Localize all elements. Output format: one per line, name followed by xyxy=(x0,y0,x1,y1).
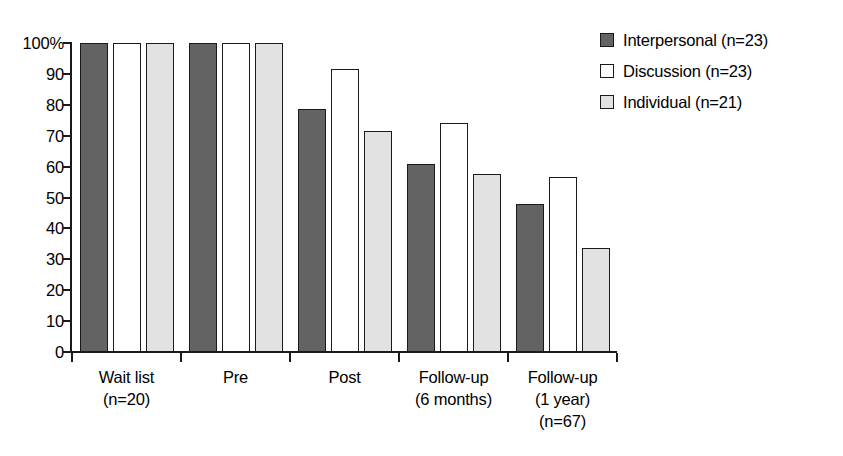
y-axis-tick-labels: 0102030405060708090100% xyxy=(8,34,64,352)
x-axis-tick-mark xyxy=(398,353,400,362)
legend-swatch-white-icon xyxy=(600,64,614,78)
x-axis-category-label: Follow-up (1 year) (n=67) xyxy=(501,366,625,432)
y-axis-tick-mark xyxy=(63,73,71,75)
legend-item-discussion: Discussion (n=23) xyxy=(600,57,843,85)
y-axis-tick-label: 60 xyxy=(8,158,64,175)
y-axis-tick-label: 10 xyxy=(8,313,64,330)
bar xyxy=(331,69,359,352)
x-axis-category-label: Wait list (n=20) xyxy=(65,366,189,410)
y-axis-tick-label: 30 xyxy=(8,251,64,268)
bar xyxy=(189,43,217,352)
y-axis-tick-label: 90 xyxy=(8,65,64,82)
bar-chart-plot-area: 0102030405060708090100% Wait list (n=20)… xyxy=(0,0,640,456)
chart-legend: Interpersonal (n=23) Discussion (n=23) I… xyxy=(600,26,843,119)
bar xyxy=(298,109,326,352)
bar xyxy=(549,177,577,352)
x-axis-category-label: Follow-up (6 months) xyxy=(392,366,516,410)
y-axis-tick-mark xyxy=(63,166,71,168)
y-axis-tick-label: 50 xyxy=(8,189,64,206)
legend-swatch-light-gray-icon xyxy=(600,95,614,109)
bar xyxy=(473,174,501,352)
x-axis-tick-mark xyxy=(507,353,509,362)
y-axis-tick-label: 70 xyxy=(8,127,64,144)
legend-label-individual: Individual (n=21) xyxy=(623,93,742,111)
y-axis-tick-mark xyxy=(63,351,71,353)
chart-page: 0102030405060708090100% Wait list (n=20)… xyxy=(0,0,843,456)
x-axis-tick-mark xyxy=(180,353,182,362)
bar xyxy=(255,43,283,352)
y-axis-tick-mark xyxy=(63,258,71,260)
y-axis-tick-label: 100% xyxy=(8,35,64,52)
y-axis-tick-mark xyxy=(63,320,71,322)
legend-item-individual: Individual (n=21) xyxy=(600,88,843,116)
y-axis-tick-label: 0 xyxy=(8,344,64,361)
y-axis-tick-mark xyxy=(63,135,71,137)
x-axis-tick-mark xyxy=(616,353,618,362)
bar xyxy=(364,131,392,352)
bar xyxy=(80,43,108,352)
y-axis-tick-mark xyxy=(63,289,71,291)
x-axis-tick-mark xyxy=(289,353,291,362)
bar xyxy=(582,248,610,352)
legend-item-interpersonal: Interpersonal (n=23) xyxy=(600,26,843,54)
bar xyxy=(113,43,141,352)
legend-label-discussion: Discussion (n=23) xyxy=(623,62,752,80)
y-axis-tick-mark xyxy=(63,197,71,199)
y-axis-tick-mark xyxy=(63,104,71,106)
bar xyxy=(146,43,174,352)
legend-label-interpersonal: Interpersonal (n=23) xyxy=(623,31,768,49)
legend-swatch-dark-gray-icon xyxy=(600,33,614,47)
y-axis-tick-mark xyxy=(63,42,71,44)
x-axis-category-label: Pre xyxy=(174,366,298,388)
x-axis-tick-mark xyxy=(71,353,73,362)
bar xyxy=(516,204,544,352)
bar xyxy=(407,164,435,352)
y-axis-tick-label: 20 xyxy=(8,282,64,299)
x-axis-category-label: Post xyxy=(283,366,407,388)
y-axis-tick-mark xyxy=(63,227,71,229)
y-axis-tick-label: 80 xyxy=(8,96,64,113)
bar xyxy=(440,123,468,352)
bar xyxy=(222,43,250,352)
y-axis-tick-label: 40 xyxy=(8,220,64,237)
